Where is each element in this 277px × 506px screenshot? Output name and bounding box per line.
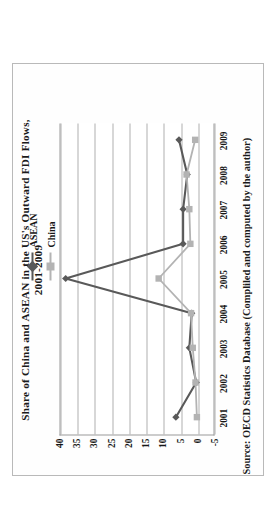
y-axis-tick-label: 10 [157, 438, 167, 472]
data-point-square-icon [155, 275, 161, 281]
series-asean [62, 136, 200, 421]
y-axis-tick-label: 25 [106, 438, 116, 472]
data-point-square-icon [193, 413, 199, 419]
y-axis-tick-label: 20 [123, 438, 133, 472]
x-axis-tick-label: 2001 [218, 398, 228, 438]
data-point-diamond-icon [175, 136, 182, 143]
y-axis-tick-label: 15 [140, 438, 150, 472]
data-point-square-icon [183, 171, 189, 177]
x-axis-tick-label: 2003 [218, 328, 228, 368]
data-point-diamond-icon [62, 274, 69, 281]
x-axis-tick-label: 2008 [218, 155, 228, 195]
x-axis-tick-label: 2006 [218, 224, 228, 264]
y-axis-tick-label: -5 [209, 438, 219, 472]
square-marker-icon [46, 262, 54, 270]
legend-item-asean: ASEAN [24, 150, 40, 280]
data-point-diamond-icon [179, 205, 186, 212]
chart-legend: ASEAN China [24, 150, 60, 280]
legend-swatch-china [44, 252, 56, 280]
legend-item-china: China [42, 150, 58, 280]
x-axis-tick-label: 2002 [218, 363, 228, 403]
scanned-page-frame: Share of China and ASEAN in the US's Out… [12, 63, 264, 476]
data-point-square-icon [187, 309, 193, 315]
data-point-square-icon [186, 205, 192, 211]
series-line [158, 139, 196, 416]
data-series-layer [60, 122, 215, 434]
series-line [65, 139, 196, 416]
y-axis-tick-label: 35 [71, 438, 81, 472]
x-axis-tick-label: 2005 [218, 259, 228, 299]
x-axis-tick-labels: 200120022003200420052006200720082009 [215, 123, 243, 435]
y-axis-tick-label: 30 [88, 438, 98, 472]
data-point-square-icon [189, 344, 195, 350]
legend-label-china: China [45, 221, 56, 247]
y-axis-tick-label: 40 [54, 438, 64, 472]
series-china [155, 136, 200, 420]
x-axis-tick-label: 2007 [218, 190, 228, 230]
plot-area [59, 123, 214, 435]
diamond-marker-icon [26, 260, 37, 271]
data-point-diamond-icon [179, 240, 186, 247]
data-point-square-icon [187, 240, 193, 246]
y-axis-tick-label: 0 [192, 438, 202, 472]
figure: Share of China and ASEAN in the US's Out… [12, 63, 264, 476]
x-axis-tick-label: 2009 [218, 120, 228, 160]
legend-label-asean: ASEAN [27, 213, 38, 247]
x-axis-tick-label: 2004 [218, 294, 228, 334]
source-note: Source: OECD Statistics Database (Compli… [240, 63, 251, 474]
legend-swatch-asean [26, 252, 38, 280]
data-point-square-icon [191, 136, 197, 142]
data-point-square-icon [192, 379, 198, 385]
rotated-figure-wrapper: Share of China and ASEAN in the US's Out… [12, 63, 264, 476]
y-axis-tick-labels: 4035302520151050-5 [59, 438, 214, 476]
y-axis-tick-label: 5 [175, 438, 185, 472]
